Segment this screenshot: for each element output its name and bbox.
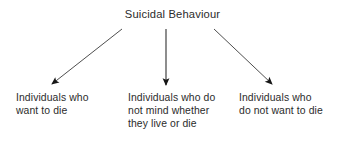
branch-label-middle-line-1: Individuals who do [128,91,215,104]
branch-label-middle-line-3: they live or die [128,117,215,130]
root-node-label: Suicidal Behaviour [0,8,345,21]
branch-label-left: Individuals who want to die [16,91,89,117]
arrow-to-right-branch [214,29,272,84]
branch-label-middle-line-2: not mind whether [128,104,215,117]
branch-label-right-line-1: Individuals who [239,91,323,104]
diagram-canvas: Suicidal Behaviour Individuals who want … [0,0,345,141]
arrow-to-left-branch [52,29,122,84]
branch-label-left-line-1: Individuals who [16,91,89,104]
branch-label-right-line-2: do not want to die [239,104,323,117]
branch-label-middle: Individuals who do not mind whether they… [128,91,215,131]
branch-label-right: Individuals who do not want to die [239,91,323,117]
branch-label-left-line-2: want to die [16,104,89,117]
